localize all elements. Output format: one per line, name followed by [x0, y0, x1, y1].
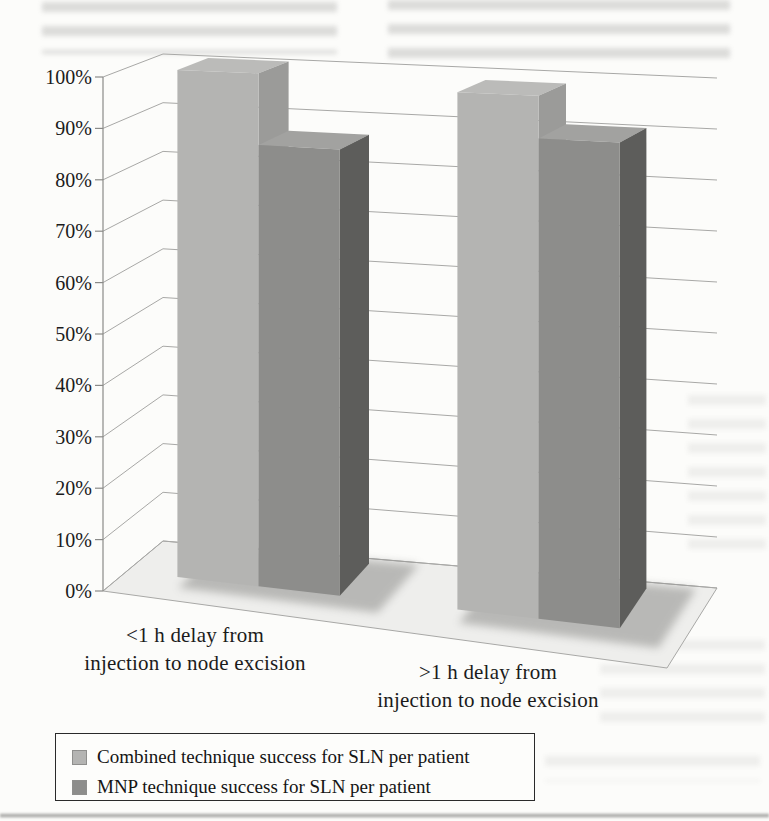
bar-mnp-group2-side-face [620, 128, 647, 628]
y-tick-label: 80% [55, 169, 92, 191]
category-label-group1-line1: <1 h delay from [25, 621, 365, 649]
y-tick-label: 10% [55, 529, 92, 551]
category-label-group1-line2: injection to node excision [25, 649, 365, 677]
category-label-group2: >1 h delay from injection to node excisi… [318, 658, 658, 714]
category-label-group1: <1 h delay from injection to node excisi… [25, 621, 365, 677]
y-tick-label: 0% [65, 580, 92, 602]
bar-mnp-group1-front-face [259, 145, 340, 596]
chart-legend: Combined technique success for SLN per p… [55, 733, 535, 801]
legend-item-combined: Combined technique success for SLN per p… [72, 742, 534, 772]
legend-label-mnp: MNP technique success for SLN per patien… [97, 776, 431, 798]
category-label-group2-line1: >1 h delay from [318, 658, 658, 686]
y-tick-label: 100% [45, 66, 92, 88]
legend-label-combined: Combined technique success for SLN per p… [97, 746, 470, 768]
legend-swatch-mnp-icon [72, 780, 87, 795]
category-label-group2-line2: injection to node excision [318, 686, 658, 714]
y-tick-label: 70% [55, 220, 92, 242]
scanned-book-figure-page: { "chart_data": { "type": "bar", "projec… [0, 0, 769, 821]
bar-mnp-group1-side-face [340, 135, 369, 596]
chart-render-root: 0%10%20%30%40%50%60%70%80%90%100% [45, 54, 717, 668]
y-tick-label: 40% [55, 374, 92, 396]
bar-combined-group2-front-face [457, 92, 538, 619]
bar-mnp-group2-front-face [539, 138, 620, 628]
y-tick-label: 50% [55, 323, 92, 345]
legend-swatch-combined-icon [72, 750, 87, 765]
legend-item-mnp: MNP technique success for SLN per patien… [72, 772, 534, 802]
y-tick-label: 90% [55, 117, 92, 139]
y-tick-label: 60% [55, 272, 92, 294]
y-tick-label: 20% [55, 477, 92, 499]
y-tick-label: 30% [55, 426, 92, 448]
bar-combined-group1-front-face [177, 70, 258, 586]
